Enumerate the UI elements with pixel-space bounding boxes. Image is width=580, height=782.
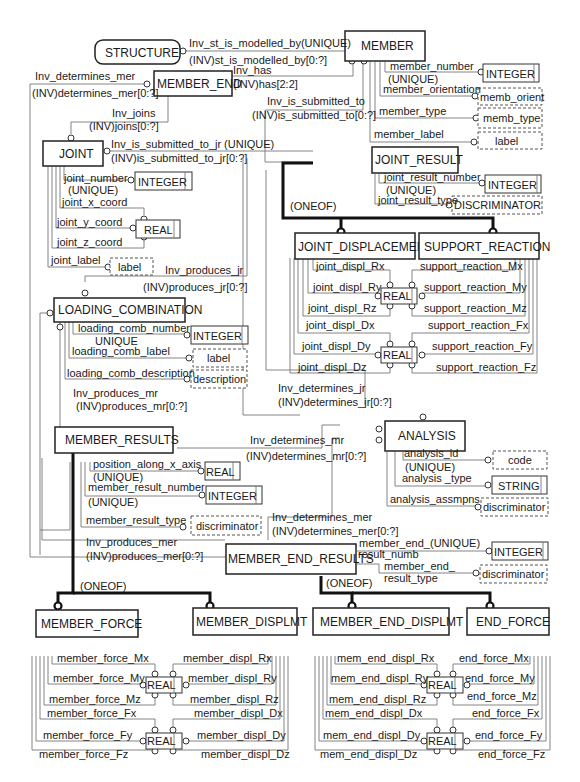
svg-text:member_displ_Dz: member_displ_Dz: [201, 748, 290, 760]
entity-label: MEMBER_END: [157, 77, 242, 91]
type-label-member[interactable]: label: [478, 132, 542, 149]
relation-label: Inv_is_submitted_to_jr (UNIQUE): [111, 138, 274, 150]
type-integer-joint-result[interactable]: INTEGER: [485, 175, 541, 193]
type-label: description: [193, 373, 246, 385]
type-integer-member[interactable]: INTEGER: [483, 64, 539, 82]
svg-text:member_orientation: member_orientation: [383, 83, 481, 95]
mer-attribute-labels: member_end_ (UNIQUE) result_numb member_…: [358, 537, 480, 584]
type-integer-member-results[interactable]: INTEGER: [206, 486, 262, 504]
entity-label: SUPPORT_REACTION: [424, 240, 550, 254]
relation-label: (INV)is_submitted_to[0:?]: [252, 109, 376, 121]
svg-text:loading_comb_label: loading_comb_label: [72, 345, 170, 357]
entity-member-force[interactable]: MEMBER_FORCE: [36, 610, 142, 637]
type-label-joint[interactable]: label: [110, 258, 153, 275]
entity-label: MEMBER_FORCE: [41, 617, 142, 631]
type-real-joint[interactable]: REAL: [136, 220, 180, 238]
member-force-attribute-labels: member_force_Mx member_force_My member_f…: [39, 652, 149, 760]
entity-member-end-displmt[interactable]: MEMBER_END_DISPLMT: [313, 608, 464, 635]
type-integer-mer[interactable]: INTEGER: [492, 542, 548, 560]
type-memb-type[interactable]: memb_type: [478, 108, 542, 128]
svg-text:mem_end_displ_Dx: mem_end_displ_Dx: [325, 707, 423, 719]
type-real-member-results[interactable]: REAL: [205, 462, 240, 480]
svg-text:analysis _type: analysis _type: [402, 472, 472, 484]
oneof-label: (ONEOF): [326, 577, 372, 589]
svg-text:(UNIQUE): (UNIQUE): [430, 537, 480, 549]
type-discriminator-joint-result[interactable]: DISCRIMINATOR: [452, 196, 542, 214]
svg-text:(UNIQUE): (UNIQUE): [88, 496, 138, 508]
relation-label: (INV)produces_mer[0:?]: [86, 550, 203, 562]
type-real-mf-2[interactable]: REAL: [146, 733, 182, 749]
svg-text:member_end_: member_end_: [384, 560, 456, 572]
type-discriminator-analysis[interactable]: discriminator: [481, 498, 548, 516]
entity-member-results[interactable]: MEMBER_RESULTS: [55, 427, 179, 453]
type-real-jd-2[interactable]: REAL: [381, 347, 417, 363]
entity-member[interactable]: MEMBER: [345, 31, 425, 61]
type-real-med-1[interactable]: REAL: [427, 677, 463, 693]
entity-member-displmt[interactable]: MEMBER_DISPLMT: [193, 608, 308, 635]
svg-text:mem_end_displ_Dz: mem_end_displ_Dz: [320, 748, 417, 760]
svg-text:member_displ_Rx: member_displ_Rx: [183, 652, 272, 664]
member-results-attribute-labels: position_along_x_axis (UNIQUE) member_re…: [86, 458, 205, 526]
svg-text:member_force_My: member_force_My: [53, 672, 145, 684]
entity-member-end[interactable]: MEMBER_END: [154, 71, 242, 96]
entity-label: STRUCTURE: [105, 46, 179, 60]
svg-text:end_force_Mx: end_force_Mx: [459, 652, 529, 664]
entity-end-force[interactable]: END_FORCE: [467, 608, 550, 635]
entity-label: MEMBER_END_RESULTS: [228, 552, 374, 566]
type-real-jd-1[interactable]: REAL: [381, 288, 417, 304]
svg-text:support_reaction_Mx: support_reaction_Mx: [420, 260, 523, 272]
svg-text:joint_x_coord: joint_x_coord: [61, 196, 127, 208]
type-discriminator-mer[interactable]: discriminator: [480, 565, 547, 583]
svg-text:end_force_Fx: end_force_Fx: [472, 707, 540, 719]
svg-text:position_along_x_axis: position_along_x_axis: [93, 458, 202, 470]
entity-support-reaction[interactable]: SUPPORT_REACTION: [419, 233, 550, 259]
type-label: INTEGER: [488, 179, 537, 191]
svg-text:result_type: result_type: [384, 572, 438, 584]
type-description-loading[interactable]: description: [191, 370, 247, 388]
entity-loading-combination[interactable]: LOADING_COMBINATION: [54, 298, 202, 322]
entity-label: MEMBER_DISPLMT: [196, 615, 308, 629]
type-discriminator-member-results[interactable]: discriminator: [191, 516, 261, 535]
relation-label: (INV)determines_jr[0:?]: [278, 396, 392, 408]
relation-label: Inv_produces_mer: [86, 536, 177, 548]
entity-structure[interactable]: STRUCTURE: [95, 40, 180, 64]
svg-text:joint_displ_Dz: joint_displ_Dz: [297, 361, 366, 373]
svg-text:joint_displ_Rz: joint_displ_Rz: [307, 302, 376, 314]
svg-text:loading_comb_description: loading_comb_description: [67, 367, 195, 379]
svg-text:member_displ_Dy: member_displ_Dy: [197, 729, 286, 741]
entity-member-end-results[interactable]: MEMBER_END_RESULTS: [226, 544, 374, 574]
relation-label: Inv_produces_jr: [165, 264, 244, 276]
type-code-analysis[interactable]: code: [493, 451, 547, 469]
type-label: label: [495, 135, 518, 147]
type-integer-loading[interactable]: INTEGER: [191, 326, 248, 344]
entity-joint[interactable]: JOINT: [43, 141, 103, 166]
svg-text:mem_end_displ_Rz: mem_end_displ_Rz: [329, 693, 426, 705]
svg-text:member_number: member_number: [390, 60, 474, 72]
type-real-mf-1[interactable]: REAL: [146, 677, 182, 693]
svg-text:end_force_Fy: end_force_Fy: [475, 729, 543, 741]
type-label-loading[interactable]: label: [193, 349, 247, 367]
relation-label: (INV)is_submitted_to_jr[0:?]: [111, 152, 247, 164]
type-label: INTEGER: [208, 490, 257, 502]
oneof-label: (ONEOF): [290, 200, 336, 212]
relation-label: Inv_st_is_modelled_by(UNIQUE): [189, 37, 351, 49]
entity-joint-displacement[interactable]: JOINT_DISPLACEMENT: [295, 233, 433, 259]
svg-text:support_reaction_Fz: support_reaction_Fz: [436, 361, 536, 373]
type-label: REAL: [428, 735, 457, 747]
entity-label: JOINT_DISPLACEMENT: [298, 240, 433, 254]
type-real-med-2[interactable]: REAL: [427, 733, 463, 749]
svg-text:(UNIQUE): (UNIQUE): [68, 184, 118, 196]
relation-label: (INV)determines_mr[0:?]: [246, 450, 366, 462]
svg-text:end_force_Fz: end_force_Fz: [478, 748, 545, 760]
relation-label: Inv_determines_mer: [35, 70, 136, 82]
type-memb-orient[interactable]: memb_orient: [478, 88, 544, 105]
svg-text:end_force_My: end_force_My: [465, 672, 535, 684]
entity-label: MEMBER_RESULTS: [65, 433, 179, 447]
type-label: label: [207, 352, 230, 364]
type-string-analysis[interactable]: STRING: [492, 476, 547, 494]
relation-label: Inv_determines_mr: [250, 434, 344, 446]
entity-joint-result[interactable]: JOINT_RESULT: [372, 147, 463, 173]
type-integer-joint[interactable]: INTEGER: [135, 172, 192, 190]
svg-text:joint_label: joint_label: [50, 254, 101, 266]
svg-text:member_label: member_label: [374, 128, 444, 140]
